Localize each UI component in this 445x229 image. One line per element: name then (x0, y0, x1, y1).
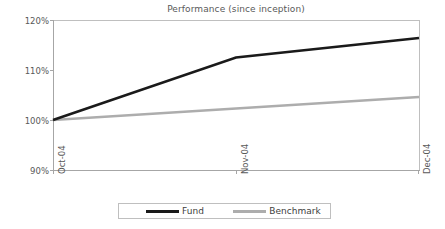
chart-title: Performance (since inception) (53, 4, 419, 14)
chart-legend: Fund Benchmark (118, 203, 331, 219)
y-tick-label-100: 100% (3, 116, 49, 126)
y-tick-label-110: 110% (3, 66, 49, 76)
y-axis-line (53, 20, 54, 171)
x-tick-label-dec: Dec-04 (422, 144, 432, 174)
x-tick-mark-oct (53, 171, 54, 174)
y-tick-label-120: 120% (3, 16, 49, 26)
y-axis-labels: 120% 110% 100% 90% (0, 0, 49, 229)
y-tick-label-90: 90% (3, 166, 49, 176)
plot-frame-right (419, 20, 420, 171)
legend-swatch-fund (146, 210, 179, 213)
series-line-fund (53, 38, 419, 120)
legend-entry-fund: Fund (127, 204, 223, 218)
y-tick-mark-120 (50, 20, 53, 21)
plot-frame-top (53, 20, 420, 21)
chart-screenshot: Performance (since inception) 120% 110% … (0, 0, 445, 229)
legend-entry-benchmark: Benchmark (227, 204, 327, 218)
chart-series-layer (0, 0, 445, 229)
legend-swatch-benchmark (233, 210, 266, 213)
legend-label-benchmark: Benchmark (269, 207, 320, 216)
y-tick-mark-110 (50, 70, 53, 71)
x-tick-mark-dec (418, 171, 419, 174)
y-tick-mark-100 (50, 120, 53, 121)
legend-label-fund: Fund (182, 207, 204, 216)
x-tick-label-oct: Oct-04 (57, 145, 67, 174)
x-tick-label-nov: Nov-04 (240, 144, 250, 174)
x-tick-mark-nov (236, 171, 237, 174)
series-line-benchmark (53, 97, 419, 120)
